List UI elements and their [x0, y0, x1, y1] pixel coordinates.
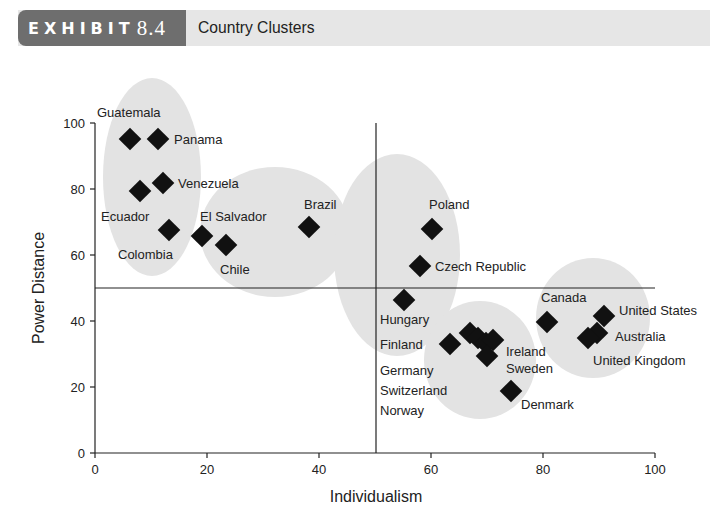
- scatter-chart: 0 20 40 60 80 100 0 20 40 60 80 100 Indi…: [0, 0, 721, 523]
- label-finland: Finland: [380, 337, 423, 352]
- x-tick-labels: 0 20 40 60 80 100: [91, 462, 665, 477]
- label-denmark: Denmark: [521, 397, 574, 412]
- x-tick-0: 0: [91, 462, 98, 477]
- label-united-kingdom: United Kingdom: [593, 353, 686, 368]
- label-germany: Germany: [380, 363, 434, 378]
- label-switzerland: Switzerland: [380, 383, 447, 398]
- y-tick-20: 20: [71, 380, 85, 395]
- x-tick-20: 20: [200, 462, 214, 477]
- x-axis-title: Individualism: [330, 488, 422, 505]
- y-tick-100: 100: [63, 116, 85, 131]
- label-sweden: Sweden: [506, 361, 553, 376]
- label-hungary: Hungary: [380, 312, 430, 327]
- label-poland: Poland: [429, 197, 469, 212]
- x-tick-80: 80: [536, 462, 550, 477]
- label-brazil: Brazil: [304, 197, 337, 212]
- label-australia: Australia: [615, 329, 666, 344]
- y-axis-title: Power Distance: [30, 232, 47, 344]
- label-canada: Canada: [541, 290, 587, 305]
- x-tick-100: 100: [644, 462, 666, 477]
- label-panama: Panama: [174, 132, 223, 147]
- label-venezuela: Venezuela: [178, 176, 239, 191]
- y-tick-40: 40: [71, 314, 85, 329]
- label-el-salvador: El Salvador: [200, 209, 267, 224]
- y-tick-60: 60: [71, 248, 85, 263]
- x-tick-40: 40: [312, 462, 326, 477]
- label-ireland: Ireland: [506, 344, 546, 359]
- y-tick-80: 80: [71, 182, 85, 197]
- y-tick-labels: 0 20 40 60 80 100: [63, 116, 85, 461]
- label-chile: Chile: [220, 262, 250, 277]
- label-colombia: Colombia: [118, 247, 174, 262]
- y-tick-0: 0: [78, 446, 85, 461]
- label-united-states: United States: [619, 303, 698, 318]
- x-tick-60: 60: [424, 462, 438, 477]
- label-guatemala: Guatemala: [97, 105, 161, 120]
- label-norway: Norway: [380, 403, 425, 418]
- label-ecuador: Ecuador: [101, 209, 150, 224]
- label-czech-republic: Czech Republic: [435, 259, 527, 274]
